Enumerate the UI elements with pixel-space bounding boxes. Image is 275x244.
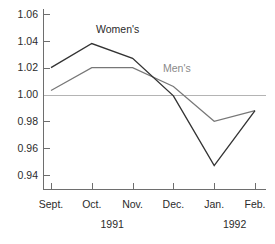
y-tick-label: 1.06 xyxy=(18,8,39,20)
x-axis-year-label: 1991 xyxy=(101,218,125,230)
x-tick-label: Nov. xyxy=(122,198,143,210)
y-tick-label: 1.00 xyxy=(18,88,39,100)
x-axis-year-label: 1992 xyxy=(223,218,247,230)
x-tick-label: Sept. xyxy=(39,198,64,210)
y-tick-label: 0.94 xyxy=(18,169,39,181)
y-tick-label: 1.04 xyxy=(18,35,39,47)
line-chart: 1.061.041.021.000.980.960.94 Sept.Oct.No… xyxy=(0,0,275,244)
series-label-mens: Men's xyxy=(163,62,191,74)
y-tick-label: 1.02 xyxy=(18,61,39,73)
series-label-womens: Women's xyxy=(96,23,139,35)
chart-canvas: 1.061.041.021.000.980.960.94 Sept.Oct.No… xyxy=(0,0,275,244)
x-tick-label: Feb. xyxy=(244,198,265,210)
x-tick-label: Oct. xyxy=(82,198,101,210)
x-tick-label: Dec. xyxy=(163,198,185,210)
y-tick-label: 0.96 xyxy=(18,142,39,154)
x-tick-label: Jan. xyxy=(204,198,224,210)
y-tick-label: 0.98 xyxy=(18,115,39,127)
